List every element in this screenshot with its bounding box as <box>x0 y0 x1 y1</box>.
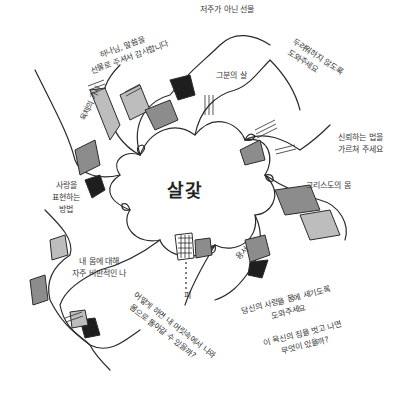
label-body-of-christ: 그리스도의 몸 <box>306 180 351 192</box>
label-self-critical-line1: 내 몸에 대해 <box>72 256 126 268</box>
label-self-critical-line2: 자주 비판적인 나 <box>72 268 126 280</box>
label-express-love-line1: 사랑을 <box>52 180 80 192</box>
label-express-love: 사랑을 표현하는 방법 <box>52 180 80 216</box>
label-teach-trust-line2: 가르쳐 주세요 <box>338 144 383 156</box>
label-self-critical: 내 몸에 대해 자주 비판적인 나 <box>72 256 126 280</box>
label-blood: 피 <box>184 290 191 302</box>
label-teach-trust-line1: 신뢰하는 법을 <box>338 132 383 144</box>
label-not-curse: 저주가 아닌 선물 <box>200 4 254 16</box>
label-express-love-line3: 방법 <box>52 204 80 216</box>
label-his-flesh: 그분의 살 <box>216 70 247 82</box>
center-label-skin: 살갗 <box>167 176 203 202</box>
label-express-love-line2: 표현하는 <box>52 192 80 204</box>
label-teach-trust: 신뢰하는 법을 가르쳐 주세요 <box>338 132 383 156</box>
